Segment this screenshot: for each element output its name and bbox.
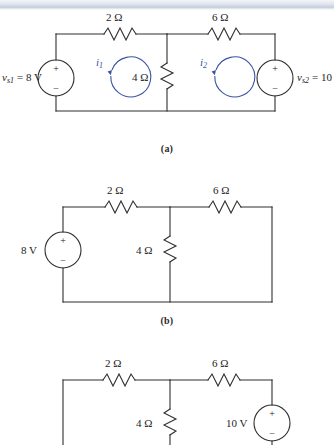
resistor-label-b-6ohm: 6 Ω <box>213 185 229 196</box>
source-label-b-left: 8 V <box>21 245 37 256</box>
source-a-left-value: = 8 V <box>14 71 42 83</box>
source-a-left-subscript: s1 <box>7 76 14 85</box>
polarity-minus-b-left: − <box>57 256 69 266</box>
source-label-a-right: vs2= 10 <box>297 72 332 85</box>
circuit-diagram-c: 2 Ω 6 Ω 4 Ω 10 V + − <box>0 350 334 445</box>
mesh-current-label-i1: i1 <box>96 57 103 70</box>
resistor-c-6ohm-symbol <box>208 374 240 386</box>
circuit-diagram-a: 2 Ω 6 Ω 4 Ω vs1= 8 V vs2= 10 + − + − i1 … <box>0 0 334 150</box>
figure-page: 2 Ω 6 Ω 4 Ω vs1= 8 V vs2= 10 + − + − i1 … <box>0 0 334 445</box>
polarity-plus-c-right: + <box>266 409 278 419</box>
circuit-c-svg <box>0 350 334 445</box>
resistor-b-2ohm-symbol <box>105 201 137 213</box>
mesh-current-label-i2: i2 <box>200 57 207 70</box>
resistor-label-c-2ohm: 2 Ω <box>105 358 121 369</box>
resistor-c-4ohm-symbol <box>164 409 176 435</box>
resistor-label-b-4ohm: 4 Ω <box>136 245 152 256</box>
circuit-diagram-b: 2 Ω 6 Ω 4 Ω 8 V + − (b) <box>0 176 334 316</box>
circuit-b-svg <box>0 176 334 316</box>
polarity-minus-c-right: − <box>266 429 278 439</box>
source-label-c-right: 10 V <box>226 418 248 429</box>
mesh-current-i2-subscript: 2 <box>203 61 207 70</box>
source-label-a-left: vs1= 8 V <box>2 72 42 85</box>
polarity-plus-a-left: + <box>50 64 62 74</box>
resistor-c-2ohm-symbol <box>103 374 135 386</box>
resistor-label-a-2ohm: 2 Ω <box>106 12 122 23</box>
mesh-loop-a-i2-arrowhead <box>212 70 216 75</box>
polarity-minus-a-right: − <box>269 84 281 94</box>
mesh-loop-a-i1-arrowhead <box>108 70 112 75</box>
resistor-label-b-2ohm: 2 Ω <box>107 185 123 196</box>
source-a-right-value: = 10 <box>309 71 332 83</box>
resistor-label-a-4ohm: 4 Ω <box>132 72 148 83</box>
resistor-a-2ohm-symbol <box>104 28 136 40</box>
resistor-b-6ohm-symbol <box>209 201 241 213</box>
polarity-plus-a-right: + <box>269 64 281 74</box>
resistor-a-4ohm-symbol <box>161 63 173 89</box>
polarity-minus-a-left: − <box>50 84 62 94</box>
mesh-loop-a-i2-circle <box>215 57 255 97</box>
figure-caption-b: (b) <box>0 315 334 326</box>
mesh-current-i1-subscript: 1 <box>99 61 103 70</box>
source-a-right-subscript: s2 <box>302 76 309 85</box>
resistor-b-4ohm-symbol <box>164 236 176 262</box>
resistor-label-c-4ohm: 4 Ω <box>136 418 152 429</box>
resistor-a-6ohm-symbol <box>208 28 240 40</box>
resistor-label-c-6ohm: 6 Ω <box>212 358 228 369</box>
circuit-a-svg <box>0 0 334 150</box>
polarity-plus-b-left: + <box>57 236 69 246</box>
resistor-label-a-6ohm: 6 Ω <box>212 12 228 23</box>
figure-caption-a: (a) <box>0 143 334 154</box>
